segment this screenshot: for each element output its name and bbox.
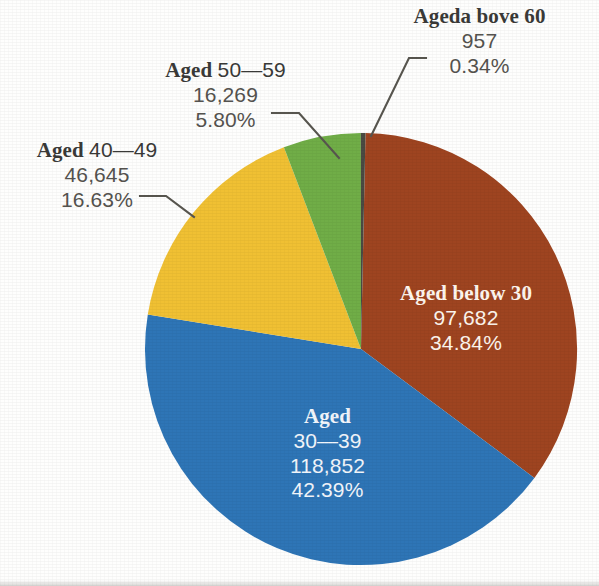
slice-label-range: 40—49 — [89, 138, 157, 161]
slice-label-aged-below-30: Aged below 30 97,682 34.84% — [372, 281, 560, 355]
slice-label-title: Ageda bove 60 — [372, 4, 587, 29]
slice-label-value: 118,852 — [245, 454, 410, 479]
slice-label-aged-above-60: Ageda bove 60 957 0.34% — [372, 4, 587, 78]
slice-label-range: 50—59 — [218, 58, 286, 81]
slice-label-title: Aged below 30 — [372, 281, 560, 306]
slice-label-title-word: Aged — [37, 138, 84, 162]
slice-label-value: 46,645 — [2, 163, 192, 188]
slice-label-value: 16,269 — [128, 83, 323, 108]
slice-label-title-word: Aged — [165, 58, 212, 82]
slice-label-percent: 5.80% — [128, 108, 323, 133]
slice-label-aged-50-59: Aged 50—59 16,269 5.80% — [128, 58, 323, 132]
slice-label-range: 30—39 — [245, 429, 410, 454]
slice-label-percent: 34.84% — [372, 331, 560, 356]
slice-label-aged-30-39: Aged 30—39 118,852 42.39% — [245, 404, 410, 503]
slice-label-title: Aged 50—59 — [128, 58, 323, 83]
slice-label-value: 97,682 — [372, 306, 560, 331]
slice-label-value: 957 — [372, 29, 587, 54]
slice-label-percent: 16.63% — [2, 188, 192, 213]
slice-label-title-word: Aged — [245, 404, 410, 429]
slice-label-aged-40-49: Aged 40—49 46,645 16.63% — [2, 138, 192, 212]
slice-label-percent: 42.39% — [245, 478, 410, 503]
slice-label-title: Aged 40—49 — [2, 138, 192, 163]
pie-chart: Ageda bove 60 957 0.34% Aged 50—59 16,26… — [0, 0, 599, 586]
slice-label-percent: 0.34% — [372, 54, 587, 79]
